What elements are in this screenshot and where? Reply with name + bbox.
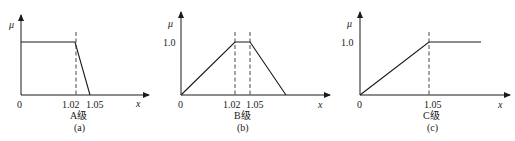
membership-function-figure: μ x 0 1.02 1.05 A级 (a) μ 1.0 x 0 1.02 1.… xyxy=(0,0,515,141)
panel-b-grade-b-membership: μ 1.0 x 0 1.02 1.05 B级 (b) xyxy=(163,12,330,134)
membership-curve xyxy=(181,42,286,95)
grade-label: B级 xyxy=(234,110,251,121)
y-tick-label-1-0: 1.0 xyxy=(341,37,354,48)
panel-caption: (c) xyxy=(427,122,438,134)
panel-a-grade-a-membership: μ x 0 1.02 1.05 A级 (a) xyxy=(8,15,149,134)
origin-label: 0 xyxy=(357,99,362,110)
x-axis-label: x xyxy=(135,98,141,109)
grade-label: C级 xyxy=(423,110,440,121)
membership-curve xyxy=(360,42,481,95)
membership-curve xyxy=(21,42,90,95)
origin-label: 0 xyxy=(17,99,22,110)
x-tick-label-1-05: 1.05 xyxy=(246,99,264,110)
panel-caption: (a) xyxy=(74,122,85,134)
x-tick-label-1-02: 1.02 xyxy=(62,99,80,110)
x-axis-label: x xyxy=(317,99,323,110)
x-tick-label-1-05: 1.05 xyxy=(424,99,442,110)
x-axis-label: x xyxy=(497,99,503,110)
y-tick-label-1-0: 1.0 xyxy=(163,37,176,48)
grade-label: A级 xyxy=(70,110,87,121)
x-tick-label-1-05: 1.05 xyxy=(86,99,104,110)
y-axis-label: μ xyxy=(346,18,352,29)
x-tick-label-1-02: 1.02 xyxy=(223,99,241,110)
y-axis-label: μ xyxy=(167,18,173,29)
panel-c-grade-c-membership: μ 1.0 x 0 1.05 C级 (c) xyxy=(341,12,510,134)
y-axis-label: μ xyxy=(8,19,14,30)
panel-caption: (b) xyxy=(237,122,249,134)
origin-label: 0 xyxy=(178,99,183,110)
